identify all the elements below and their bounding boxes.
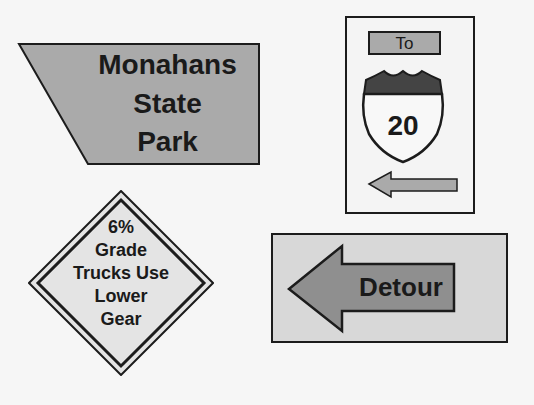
route-number: 20 xyxy=(364,112,442,140)
warning-line-3: Trucks Use xyxy=(28,264,214,282)
park-sign-line-1: Monahans xyxy=(80,51,255,79)
detour-sign: Detour xyxy=(271,233,508,343)
warning-line-5: Gear xyxy=(28,310,214,328)
warning-line-1: 6% xyxy=(28,218,214,236)
to-label: To xyxy=(369,35,440,52)
grade-warning-sign: 6% Grade Trucks Use Lower Gear xyxy=(28,190,214,376)
warning-line-4: Lower xyxy=(28,287,214,305)
park-sign-line-2: State xyxy=(80,90,255,118)
detour-label: Detour xyxy=(351,274,451,300)
park-sign-line-3: Park xyxy=(80,128,255,156)
interstate-20-sign: To 20 xyxy=(345,16,475,214)
warning-line-2: Grade xyxy=(28,241,214,259)
